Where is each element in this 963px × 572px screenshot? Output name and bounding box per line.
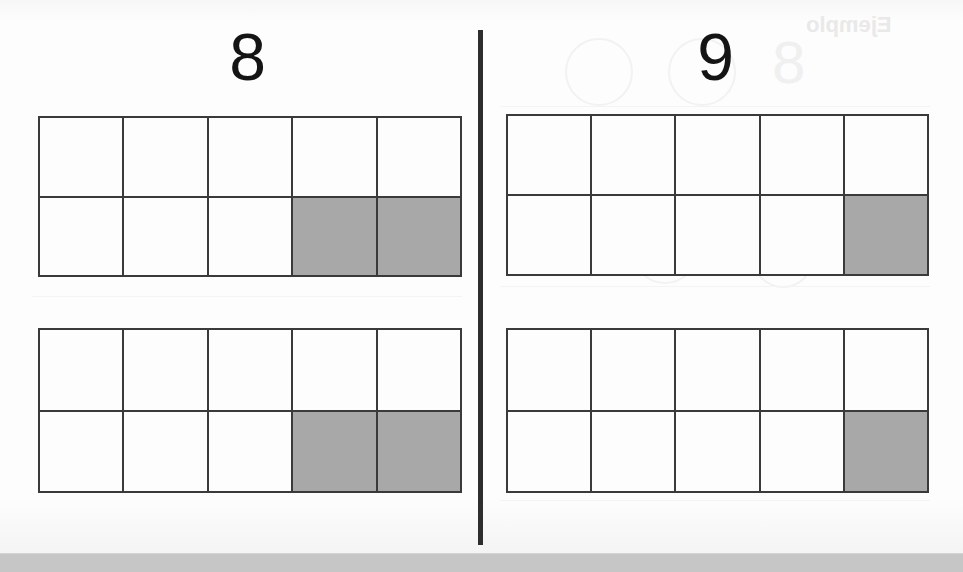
ten-frame-cell-empty[interactable] — [209, 330, 291, 410]
ten-frame-cell-filled[interactable] — [378, 412, 460, 492]
ten-frame-cell-empty[interactable] — [508, 196, 590, 274]
ten-frame-cell-empty[interactable] — [676, 196, 758, 274]
worksheet-page: Ejemplo 8 8 9 — [0, 0, 963, 572]
ten-frame-cell-empty[interactable] — [676, 412, 758, 492]
ten-frame-cell-empty[interactable] — [40, 118, 122, 196]
ten-frame-cell-empty[interactable] — [592, 196, 674, 274]
panel-heading-left: 8 — [187, 24, 307, 90]
bleed-through-rule — [500, 106, 930, 107]
ten-frame-cell-empty[interactable] — [293, 118, 375, 196]
ten-frame-cell-empty[interactable] — [209, 412, 291, 492]
ten-frame-cell-empty[interactable] — [761, 116, 843, 194]
ten-frame-cell-empty[interactable] — [40, 198, 122, 276]
ten-frame-right-top — [506, 114, 929, 276]
ten-frame-cell-empty[interactable] — [124, 412, 206, 492]
bleed-through-circle — [565, 38, 633, 106]
bleed-through-rule — [500, 500, 930, 501]
ten-frame-cell-filled[interactable] — [293, 412, 375, 492]
ten-frame-left-bottom — [38, 328, 462, 493]
ten-frame-cell-empty[interactable] — [761, 412, 843, 492]
ten-frame-cell-empty[interactable] — [508, 330, 590, 410]
ten-frame-cell-empty[interactable] — [845, 330, 927, 410]
ten-frame-cell-empty[interactable] — [761, 196, 843, 274]
ten-frame-cell-empty[interactable] — [761, 330, 843, 410]
ten-frame-right-bottom — [506, 328, 929, 493]
ten-frame-left-top — [38, 116, 462, 277]
ten-frame-cell-empty[interactable] — [124, 198, 206, 276]
ten-frame-cell-empty[interactable] — [845, 116, 927, 194]
ten-frame-cell-empty[interactable] — [592, 116, 674, 194]
ten-frame-cell-empty[interactable] — [209, 118, 291, 196]
ten-frame-cell-empty[interactable] — [293, 330, 375, 410]
ten-frame-cell-empty[interactable] — [40, 330, 122, 410]
ten-frame-cell-empty[interactable] — [508, 116, 590, 194]
ten-frame-cell-filled[interactable] — [845, 196, 927, 274]
ten-frame-cell-filled[interactable] — [293, 198, 375, 276]
ten-frame-cell-empty[interactable] — [378, 330, 460, 410]
ten-frame-cell-empty[interactable] — [508, 412, 590, 492]
ten-frame-cell-filled[interactable] — [378, 198, 460, 276]
ten-frame-cell-empty[interactable] — [676, 116, 758, 194]
bleed-through-rule — [32, 296, 462, 297]
bleed-through-rule — [500, 286, 930, 287]
footer-bar — [0, 553, 963, 572]
bleed-through-word: Ejemplo — [806, 12, 892, 38]
ten-frame-cell-empty[interactable] — [40, 412, 122, 492]
ten-frame-cell-empty[interactable] — [209, 198, 291, 276]
ten-frame-cell-empty[interactable] — [124, 118, 206, 196]
ten-frame-cell-empty[interactable] — [676, 330, 758, 410]
ten-frame-cell-empty[interactable] — [592, 330, 674, 410]
panel-divider — [478, 30, 483, 545]
ten-frame-cell-empty[interactable] — [124, 330, 206, 410]
ten-frame-cell-filled[interactable] — [845, 412, 927, 492]
ten-frame-cell-empty[interactable] — [592, 412, 674, 492]
panel-heading-right: 9 — [655, 24, 775, 90]
bleed-through-digit: 8 — [772, 28, 805, 97]
ten-frame-cell-empty[interactable] — [378, 118, 460, 196]
